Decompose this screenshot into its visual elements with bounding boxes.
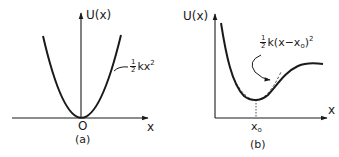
panel-b-harmonic-approximation	[232, 72, 281, 100]
panel-b-x-axis-label: x	[328, 104, 335, 116]
panel-b	[215, 14, 327, 118]
half-fraction: 1 2	[260, 35, 266, 50]
panel-a-leader-line	[114, 67, 128, 71]
panel-a-parabola	[43, 35, 121, 118]
panel-b-curve-label: 1 2 k(x−xo)2	[260, 35, 313, 50]
panel-a-y-axis-label: U(x)	[86, 9, 111, 21]
panel-b-minimum-label: xo	[251, 121, 262, 134]
panel-a-curve-label: 1 2 kx2	[130, 59, 155, 74]
figure-canvas	[0, 0, 339, 157]
panel-a-origin-label: O	[78, 120, 87, 132]
panel-b-y-axis-label: U(x)	[183, 10, 208, 22]
panel-a-caption: (a)	[75, 134, 90, 145]
panel-b-caption: (b)	[250, 139, 266, 150]
panel-b-leader-arrow	[252, 55, 270, 80]
half-fraction: 1 2	[130, 59, 136, 74]
panel-a	[12, 13, 148, 118]
panel-a-x-axis-label: x	[147, 121, 154, 133]
